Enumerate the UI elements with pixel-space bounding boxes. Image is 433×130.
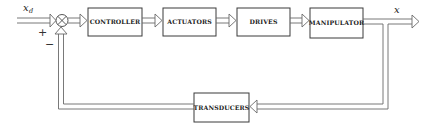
summing-junction-icon — [56, 15, 68, 27]
actuators-label: ACTUATORS — [166, 18, 212, 25]
arrow-actuators-to-drives — [216, 14, 236, 27]
manipulator-block: MANIPULATOR — [309, 8, 365, 38]
drives-label: DRIVES — [250, 18, 278, 25]
transducers-block: TRANSDUCERS — [194, 93, 250, 122]
transducers-label: TRANSDUCERS — [194, 104, 250, 111]
actuators-block: ACTUATORS — [163, 8, 216, 36]
minus-sign: − — [45, 38, 54, 51]
manipulator-label: MANIPULATOR — [309, 19, 365, 26]
controller-label: CONTROLLER — [90, 18, 141, 25]
controller-block: CONTROLLER — [88, 8, 142, 36]
input-arrow — [17, 14, 56, 27]
feedback-control-block-diagram: x d + − CONTROLLER ACTUATORS DRIVES — [0, 0, 433, 130]
feedback-path-to-junction — [55, 27, 194, 109]
arrow-junction-to-controller — [68, 14, 87, 27]
svg-text:d: d — [29, 7, 33, 15]
input-signal-label: x d — [23, 2, 33, 15]
drives-block: DRIVES — [237, 8, 290, 36]
output-arrow — [363, 15, 419, 28]
arrow-drives-to-manipulator — [290, 14, 309, 27]
arrow-controller-to-actuators — [142, 14, 162, 27]
output-signal-label: x — [394, 4, 400, 15]
